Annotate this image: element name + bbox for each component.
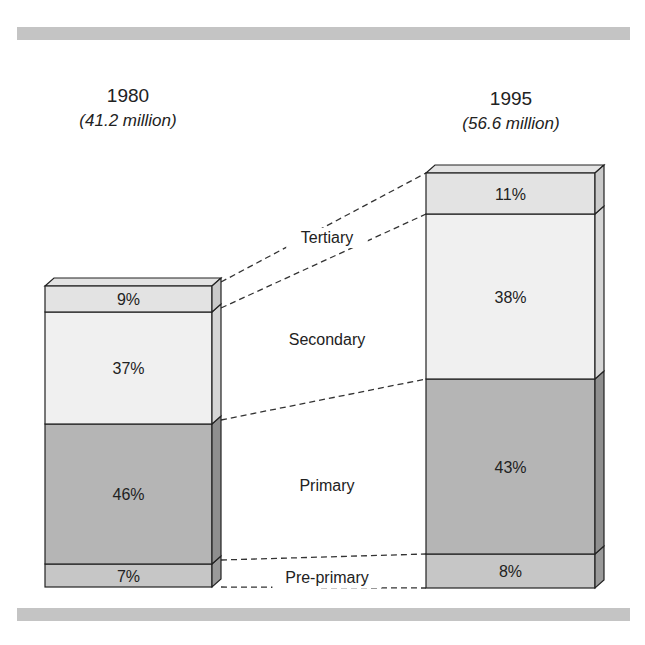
dashed-connector-line	[221, 554, 426, 560]
bottom-divider-band	[17, 608, 630, 621]
bar-1980: 7%46%37%9%	[45, 278, 221, 587]
svg-text:Primary: Primary	[299, 477, 354, 494]
value-label: 37%	[112, 360, 144, 377]
value-label: 46%	[112, 486, 144, 503]
svg-text:Secondary: Secondary	[289, 331, 366, 348]
segment-primary: 46%	[45, 416, 221, 564]
value-label: 38%	[494, 289, 526, 306]
value-label: 43%	[494, 459, 526, 476]
segment-secondary: 37%	[45, 304, 221, 424]
value-label: 9%	[117, 291, 140, 308]
value-label: 8%	[499, 563, 522, 580]
bar-top-face	[45, 278, 221, 286]
stacked-bar-chart: TertiarySecondaryPrimaryPre-primary7%46%…	[0, 0, 645, 645]
value-label: 11%	[495, 186, 526, 203]
segment-secondary: 38%	[426, 206, 604, 379]
bar-1995: 8%43%38%11%	[426, 165, 604, 588]
svg-text:Pre-primary: Pre-primary	[285, 569, 369, 586]
series-label-primary: Primary	[291, 476, 363, 496]
series-label-pre-primary: Pre-primary	[272, 568, 381, 588]
series-label-secondary: Secondary	[282, 330, 373, 350]
bar-top-face	[426, 165, 604, 173]
value-label: 7%	[117, 568, 140, 585]
svg-text:Tertiary: Tertiary	[301, 229, 353, 246]
dashed-connector-line	[221, 379, 426, 420]
series-label-tertiary: Tertiary	[286, 228, 368, 248]
segment-primary: 43%	[426, 371, 604, 554]
